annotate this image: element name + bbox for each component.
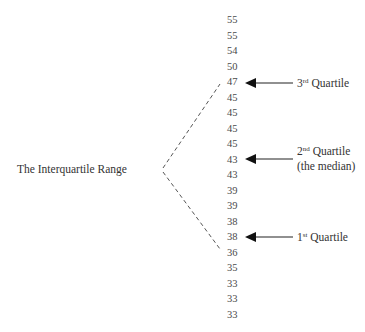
dashed-line-lower: [163, 172, 220, 249]
interquartile-range-label: The Interquartile Range: [17, 163, 127, 176]
q2-ordinal: 2: [297, 145, 303, 157]
arrow-q2-icon: [245, 154, 293, 164]
q1-ordinal: 1: [297, 231, 303, 243]
q3-label: 3rd Quartile: [297, 77, 349, 90]
q1-text: Quartile: [310, 231, 348, 243]
q2-text: Quartile: [313, 145, 351, 157]
q1-suffix: st: [303, 231, 308, 239]
q3-ordinal: 3: [297, 77, 303, 89]
arrow-q3-icon: [245, 78, 293, 88]
q2-suffix: nd: [303, 145, 310, 153]
q3-text: Quartile: [311, 77, 349, 89]
q3-suffix: rd: [303, 77, 309, 85]
q2-label: 2nd Quartile: [297, 145, 350, 158]
q2-sublabel: (the median): [297, 160, 355, 173]
dashed-line-upper: [163, 84, 220, 168]
arrow-q1-icon: [245, 232, 293, 242]
q1-label: 1st Quartile: [297, 231, 348, 244]
